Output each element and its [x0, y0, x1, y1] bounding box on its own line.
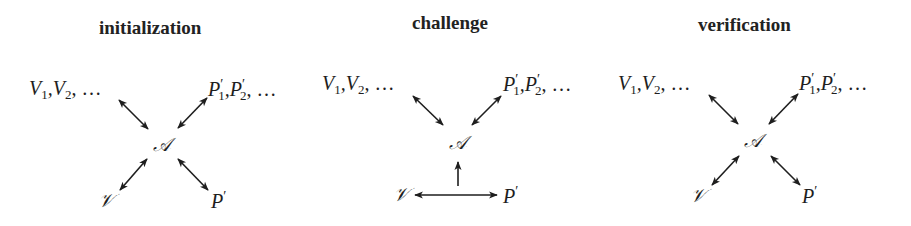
panel-title: verification	[698, 14, 791, 36]
verifier-node: 𝒱	[690, 186, 706, 205]
panel-verification: verification V1,V2, … P′1,P′2, … 𝒜 𝒱 P′	[0, 0, 911, 226]
provers-label: P′1,P′2, …	[799, 72, 868, 96]
prover-node: P′	[802, 185, 817, 206]
verifiers-label: V1,V2, …	[618, 73, 690, 96]
adversary-node: 𝒜	[744, 131, 762, 150]
